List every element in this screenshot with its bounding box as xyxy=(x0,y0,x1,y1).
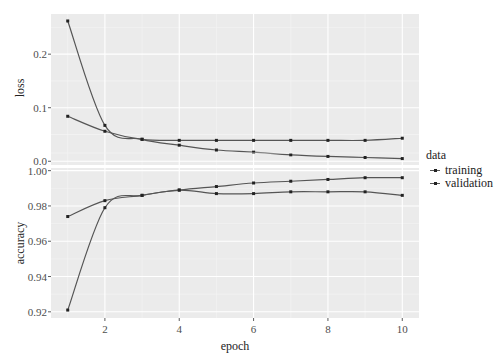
data-point xyxy=(364,176,367,179)
data-point xyxy=(141,138,144,141)
data-point xyxy=(289,153,292,156)
x-tick-label: 4 xyxy=(176,323,182,335)
x-tick-label: 2 xyxy=(102,323,108,335)
y-tick-label: 0.1 xyxy=(33,102,47,114)
legend-title: data xyxy=(426,148,493,163)
x-axis: 246810 xyxy=(102,318,408,335)
loss-panel: 0.00.10.2 xyxy=(33,14,419,167)
data-point xyxy=(401,157,404,160)
x-tick-label: 8 xyxy=(325,323,331,335)
data-point xyxy=(103,206,106,209)
panel-background xyxy=(51,14,419,165)
data-point xyxy=(289,190,292,193)
data-point xyxy=(401,176,404,179)
data-point xyxy=(66,115,69,118)
y-tick-label: 0.92 xyxy=(28,306,47,318)
line-point-key-icon xyxy=(429,177,441,190)
data-point xyxy=(215,185,218,188)
accuracy-axis-title: accuracy xyxy=(13,222,27,265)
data-point xyxy=(364,156,367,159)
y-tick-label: 0.2 xyxy=(33,48,47,60)
y-tick-label: 0.98 xyxy=(28,200,48,212)
x-tick-label: 6 xyxy=(251,323,257,335)
data-point xyxy=(326,139,329,142)
loss-axis-title: loss xyxy=(13,78,27,97)
data-point xyxy=(252,182,255,185)
data-point xyxy=(66,19,69,22)
data-point xyxy=(103,199,106,202)
legend-label: validation xyxy=(445,176,493,191)
data-point xyxy=(215,192,218,195)
data-point xyxy=(252,139,255,142)
x-tick-label: 10 xyxy=(397,323,409,335)
data-point xyxy=(141,194,144,197)
data-point xyxy=(215,139,218,142)
legend-item-validation: validation xyxy=(426,177,493,190)
line-point-key-icon xyxy=(429,164,441,177)
chart-canvas: 0.00.10.2 0.920.940.960.981.00 246810 ep… xyxy=(0,0,497,358)
data-point xyxy=(178,144,181,147)
legend: data training validation xyxy=(426,148,493,190)
data-point xyxy=(401,194,404,197)
data-point xyxy=(326,190,329,193)
data-point xyxy=(252,192,255,195)
data-point xyxy=(215,149,218,152)
data-point xyxy=(103,130,106,133)
accuracy-panel: 0.920.940.960.981.00 xyxy=(28,153,419,318)
data-point xyxy=(364,190,367,193)
data-point xyxy=(178,189,181,192)
data-point xyxy=(289,139,292,142)
data-point xyxy=(364,139,367,142)
data-point xyxy=(66,215,69,218)
data-point xyxy=(401,137,404,140)
data-point xyxy=(66,309,69,312)
data-point xyxy=(178,139,181,142)
y-tick-label: 0.94 xyxy=(28,271,48,283)
y-tick-label: 1.00 xyxy=(28,165,48,177)
data-point xyxy=(103,124,106,127)
data-point xyxy=(289,180,292,183)
data-point xyxy=(326,155,329,158)
y-tick-label: 0.96 xyxy=(28,235,48,247)
data-point xyxy=(326,178,329,181)
x-axis-title: epoch xyxy=(221,339,250,353)
